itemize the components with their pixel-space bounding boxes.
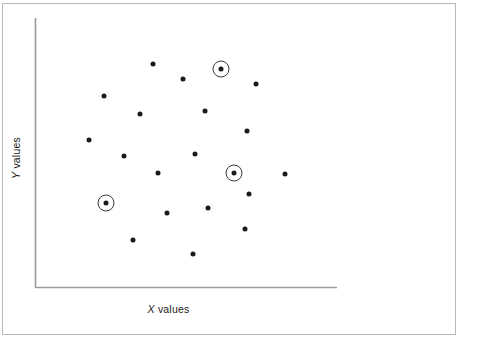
- scatter-point: [138, 112, 143, 117]
- scatter-point: [245, 129, 250, 134]
- scatter-point: [122, 154, 127, 159]
- scatter-point: [151, 62, 156, 67]
- scatter-point: [247, 192, 252, 197]
- highlight-rings-layer: [98, 61, 242, 211]
- x-axis-label-text: values: [155, 303, 190, 315]
- y-axis-label-variable: Y: [10, 172, 22, 179]
- scatter-point: [156, 171, 161, 176]
- data-points-layer: [87, 62, 288, 257]
- scatter-point: [87, 138, 92, 143]
- plot-canvas: [0, 0, 481, 344]
- axis-lines: [35, 18, 337, 288]
- scatter-point: [206, 206, 211, 211]
- scatter-point: [283, 172, 288, 177]
- scatter-point: [181, 77, 186, 82]
- scatter-point: [191, 252, 196, 257]
- scatter-point: [243, 227, 248, 232]
- scatter-point: [203, 109, 208, 114]
- scatter-point: [193, 152, 198, 157]
- scatter-point: [165, 211, 170, 216]
- scatter-point: [104, 201, 109, 206]
- scatter-point: [131, 238, 136, 243]
- scatter-plot-figure: Y values X values: [0, 0, 481, 344]
- scatter-point: [232, 171, 237, 176]
- y-axis-label-text: values: [10, 137, 22, 172]
- x-axis-label-variable: X: [148, 303, 155, 315]
- y-axis-label: Y values: [10, 98, 22, 218]
- x-axis-label: X values: [0, 303, 337, 315]
- scatter-point: [219, 67, 224, 72]
- scatter-point: [254, 82, 259, 87]
- scatter-point: [102, 94, 107, 99]
